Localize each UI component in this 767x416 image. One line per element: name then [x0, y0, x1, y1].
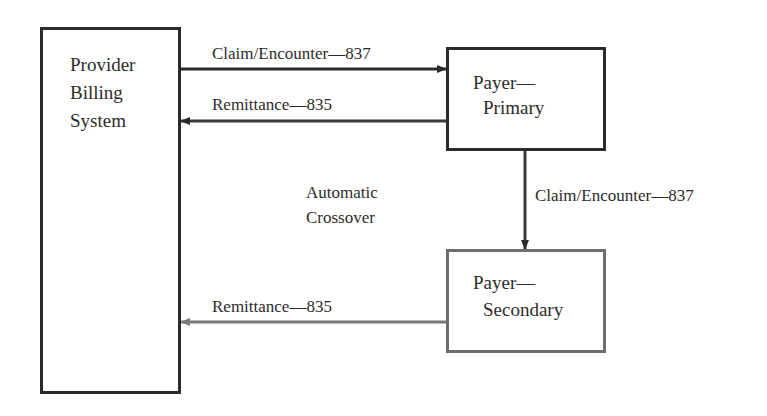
- payer-primary-box: Payer— Primary: [446, 47, 606, 151]
- provider-label-line3: System: [70, 108, 126, 134]
- secondary-label-line2: Secondary: [483, 297, 563, 323]
- secondary-label-line1: Payer—: [473, 270, 535, 296]
- provider-label-line1: Provider: [70, 52, 135, 78]
- primary-label-line2: Primary: [483, 95, 544, 121]
- primary-label-line1: Payer—: [473, 70, 535, 96]
- edge-label-remittance-primary: Remittance—835: [212, 94, 332, 115]
- payer-secondary-box: Payer— Secondary: [446, 249, 606, 353]
- edge-label-claim-primary: Claim/Encounter—837: [212, 43, 371, 64]
- annotation-crossover: Crossover: [306, 207, 375, 228]
- edge-label-claim-secondary: Claim/Encounter—837: [535, 185, 694, 206]
- edge-label-remittance-secondary: Remittance—835: [212, 296, 332, 317]
- provider-billing-system-box: Provider Billing System: [40, 27, 181, 394]
- annotation-automatic: Automatic: [306, 182, 378, 203]
- provider-label-line2: Billing: [70, 80, 123, 106]
